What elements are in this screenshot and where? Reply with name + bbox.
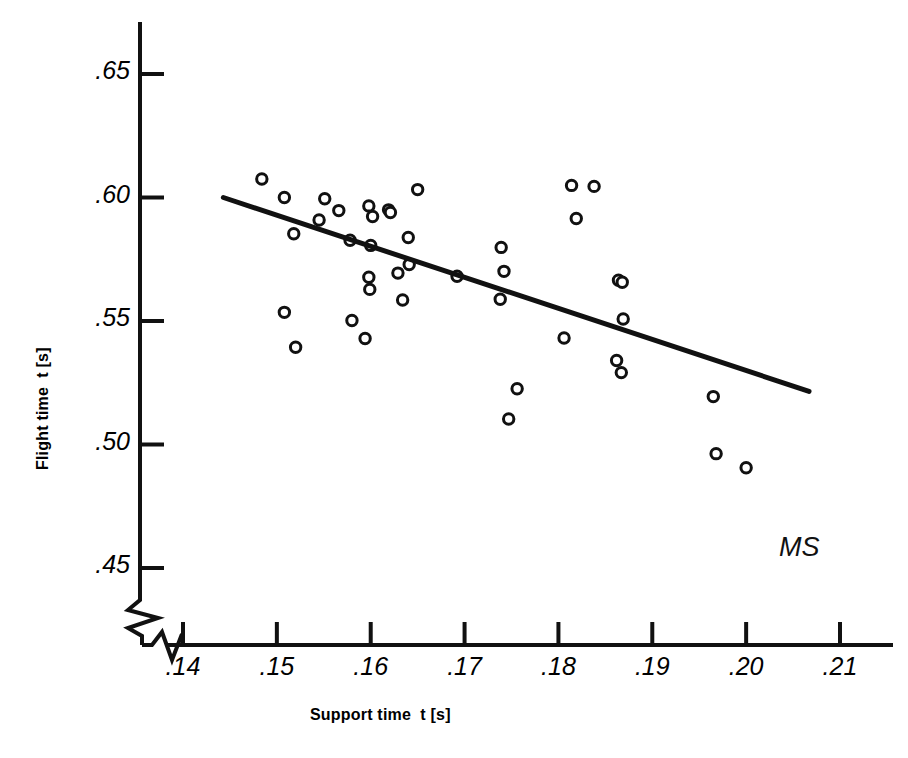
data-point bbox=[618, 314, 628, 324]
data-point bbox=[279, 307, 289, 317]
axes-group bbox=[128, 22, 893, 660]
y-tick-label: .45 bbox=[60, 550, 130, 579]
data-point bbox=[512, 383, 522, 393]
data-point bbox=[367, 211, 377, 221]
x-tick-label: .16 bbox=[335, 652, 407, 681]
data-point bbox=[616, 367, 626, 377]
x-tick-label: .15 bbox=[241, 652, 313, 681]
data-point bbox=[364, 272, 374, 282]
data-point bbox=[412, 184, 422, 194]
y-tick-label: .60 bbox=[60, 180, 130, 209]
data-point bbox=[499, 266, 509, 276]
data-point bbox=[393, 268, 403, 278]
data-point bbox=[320, 194, 330, 204]
data-point bbox=[403, 232, 413, 242]
data-point bbox=[385, 207, 395, 217]
x-tick-label: .21 bbox=[804, 652, 876, 681]
data-point bbox=[279, 192, 289, 202]
data-point bbox=[503, 414, 513, 424]
data-point bbox=[364, 201, 374, 211]
data-point bbox=[741, 463, 751, 473]
data-point bbox=[571, 213, 581, 223]
x-axis-title: Support time t [s] bbox=[310, 706, 451, 724]
data-point bbox=[314, 215, 324, 225]
data-point bbox=[495, 294, 505, 304]
data-point bbox=[711, 448, 721, 458]
x-tick-label: .14 bbox=[147, 652, 219, 681]
x-tick-label: .20 bbox=[710, 652, 782, 681]
data-point bbox=[589, 181, 599, 191]
regression-line-group bbox=[223, 198, 809, 392]
y-axis-ticks bbox=[140, 74, 164, 568]
data-point bbox=[257, 174, 267, 184]
data-point bbox=[334, 205, 344, 215]
y-axis-title: Flight time t [s] bbox=[34, 347, 52, 470]
data-point bbox=[347, 315, 357, 325]
scatter-chart-figure: .45.50.55.60.65 .14.15.16.17.18.19.20.21… bbox=[0, 0, 908, 758]
data-point bbox=[566, 180, 576, 190]
ms-annotation: MS bbox=[779, 532, 820, 563]
data-points-group bbox=[257, 174, 752, 473]
data-point bbox=[559, 333, 569, 343]
data-point bbox=[611, 355, 621, 365]
x-axis-ticks bbox=[183, 622, 840, 645]
y-tick-label: .50 bbox=[60, 427, 130, 456]
x-tick-label: .19 bbox=[616, 652, 688, 681]
x-tick-label: .17 bbox=[429, 652, 501, 681]
data-point bbox=[617, 277, 627, 287]
x-tick-label: .18 bbox=[522, 652, 594, 681]
data-point bbox=[289, 229, 299, 239]
data-point bbox=[290, 342, 300, 352]
data-point bbox=[708, 391, 718, 401]
plot-canvas bbox=[0, 0, 908, 758]
y-axis-break-marker bbox=[128, 590, 158, 645]
data-point bbox=[397, 295, 407, 305]
data-point bbox=[365, 284, 375, 294]
y-tick-label: .65 bbox=[60, 56, 130, 85]
regression-line bbox=[223, 198, 809, 392]
y-tick-label: .55 bbox=[60, 303, 130, 332]
data-point bbox=[496, 242, 506, 252]
data-point bbox=[360, 333, 370, 343]
